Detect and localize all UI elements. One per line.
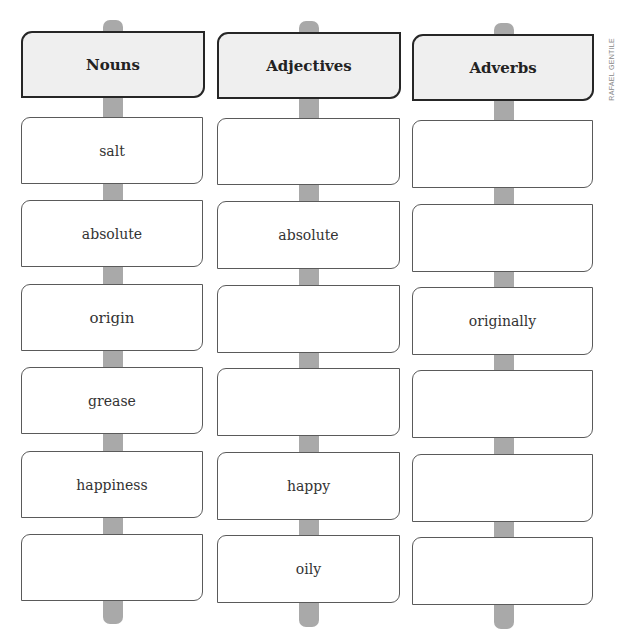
word-cell[interactable] — [412, 204, 593, 272]
word-cell[interactable]: happy — [217, 452, 400, 520]
word-cell[interactable] — [412, 537, 593, 605]
column-adjectives: Adjectives absolute happy oily — [217, 0, 401, 629]
word-cell[interactable]: salt — [21, 117, 203, 184]
word-cell[interactable]: originally — [412, 287, 593, 355]
word-cell[interactable] — [21, 534, 203, 601]
word-cell[interactable]: absolute — [217, 201, 400, 269]
word-cell[interactable] — [412, 454, 593, 522]
column-header: Adjectives — [217, 32, 401, 99]
word-cell[interactable]: absolute — [21, 200, 203, 267]
word-cell[interactable] — [217, 118, 400, 185]
word-cell[interactable]: oily — [217, 535, 400, 603]
word-cell[interactable] — [412, 120, 593, 188]
word-cell[interactable] — [217, 368, 400, 436]
column-nouns: Nouns salt absolute origin grease happin… — [21, 0, 205, 629]
photo-credit: RAFAEL GENTILE — [608, 38, 615, 101]
word-cell[interactable]: origin — [21, 284, 203, 351]
column-header: Nouns — [21, 31, 205, 98]
word-cell[interactable] — [217, 285, 400, 353]
word-cell[interactable]: happiness — [21, 451, 203, 518]
column-header: Adverbs — [412, 34, 594, 101]
word-cell[interactable]: grease — [21, 367, 203, 434]
word-cell[interactable] — [412, 370, 593, 438]
column-adverbs: Adverbs originally — [412, 0, 596, 629]
